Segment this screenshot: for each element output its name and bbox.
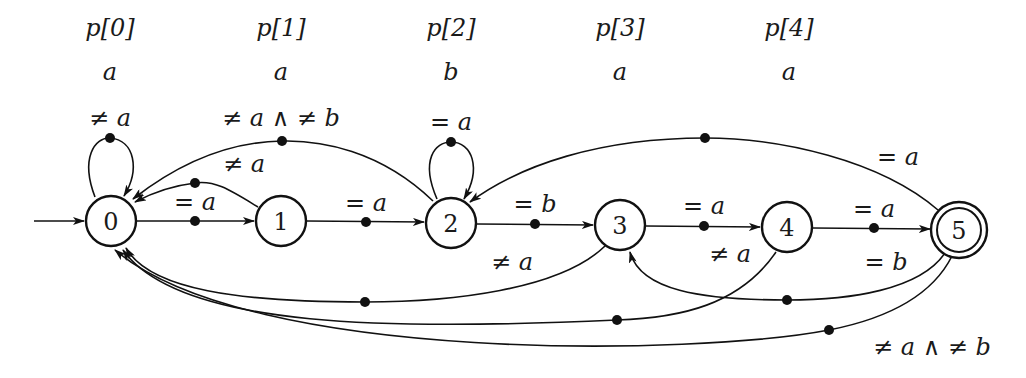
header-p1: p[1] [256, 14, 306, 42]
state-5-accepting: 5 [931, 202, 987, 258]
header-p2: p[2] [426, 14, 476, 42]
state-1-label: 1 [273, 208, 288, 236]
state-3-label: 3 [612, 212, 627, 240]
pattern-headers: p[0] a p[1] a p[2] b p[3] a p[4] a [85, 14, 814, 86]
edge-3-0 [126, 246, 605, 302]
edge-4-0 [123, 250, 776, 325]
edge-label-2-3: = b [513, 190, 556, 218]
state-0-label: 0 [103, 208, 118, 236]
edge-label-3-4: = a [683, 192, 725, 220]
header-p4: p[4] [764, 14, 814, 42]
edge-label-4-0: ≠ a [709, 240, 751, 268]
header-p0: p[0] [85, 14, 135, 42]
edge-label-5-2: = a [877, 143, 919, 171]
state-4-label: 4 [779, 214, 794, 242]
header-p3: p[3] [595, 14, 645, 42]
state-1: 1 [256, 196, 306, 246]
edge-label-1-0: ≠ a [223, 150, 265, 178]
edge-label-0-0: ≠ a [89, 104, 131, 132]
header-char-3: a [613, 58, 627, 86]
edge-label-5-3: = b [864, 248, 907, 276]
header-char-0: a [103, 58, 117, 86]
header-char-4: a [782, 58, 796, 86]
state-5-label: 5 [951, 217, 966, 245]
state-3: 3 [595, 200, 645, 250]
edge-2-2 [429, 142, 473, 199]
edge-label-2-2: = a [430, 108, 472, 136]
state-2: 2 [426, 198, 476, 248]
automaton-diagram: p[0] a p[1] a p[2] b p[3] a p[4] a ≠ a =… [0, 0, 1026, 378]
state-2-label: 2 [443, 210, 458, 238]
edge-label-3-0: ≠ a [491, 248, 533, 276]
edge-label-5-0: ≠ a ∧ ≠ b [873, 333, 991, 361]
header-char-2: b [443, 58, 458, 86]
edge-label-2-0: ≠ a ∧ ≠ b [222, 104, 340, 132]
edge-label-1-2: = a [345, 189, 387, 217]
transitions: ≠ a = a ≠ a = a ≠ a ∧ ≠ b = a = b = a = [34, 104, 991, 361]
header-char-1: a [274, 58, 288, 86]
edge-0-0 [89, 138, 133, 197]
edge-label-4-5: = a [853, 195, 895, 223]
state-0: 0 [86, 196, 136, 246]
edge-label-0-1: = a [174, 188, 216, 216]
state-4: 4 [762, 202, 812, 252]
